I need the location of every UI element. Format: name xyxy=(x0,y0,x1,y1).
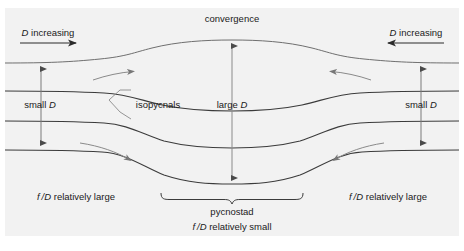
d-symbol-small-left: D xyxy=(49,99,56,110)
fd-symbol-center: f /D xyxy=(193,221,207,232)
pycnostad-label: pycnostad xyxy=(210,207,253,217)
fd-text-left: relatively large xyxy=(51,191,115,202)
pycnostad-brace xyxy=(161,193,303,204)
convergence-label: convergence xyxy=(205,14,259,24)
fd-relatively-large-label-right: f /D relatively large xyxy=(349,192,427,202)
fd-relatively-small-label-center: f /D relatively small xyxy=(193,222,272,232)
d-symbol-left: D xyxy=(22,27,29,38)
large-d-label-center: large D xyxy=(217,100,248,110)
d-increasing-label-left: D increasing xyxy=(22,28,75,38)
fd-symbol-left: f /D xyxy=(37,191,51,202)
fd-text-right: relatively large xyxy=(363,191,427,202)
small-d-label-right: small D xyxy=(405,100,437,110)
d-increasing-text-right: increasing xyxy=(396,27,442,38)
flow-arrow-upper-right xyxy=(331,72,371,81)
fd-relatively-large-label-left: f /D relatively large xyxy=(37,192,115,202)
d-symbol-right: D xyxy=(390,27,397,38)
fd-symbol-right: f /D xyxy=(349,191,363,202)
isopycnals-leader-lower xyxy=(109,100,131,119)
small-d-label-left: small D xyxy=(24,100,56,110)
fd-text-center: relatively small xyxy=(207,221,272,232)
small-prefix-left: small xyxy=(24,99,49,110)
flow-arrow-upper-left xyxy=(93,72,133,81)
figure-root: convergence D increasing D increasing sm… xyxy=(0,0,464,251)
d-symbol-small-right: D xyxy=(430,99,437,110)
large-prefix: large xyxy=(217,99,241,110)
isopycnals-label: isopycnals xyxy=(136,100,180,110)
d-symbol-large: D xyxy=(240,99,247,110)
small-prefix-right: small xyxy=(405,99,430,110)
d-increasing-label-right: D increasing xyxy=(390,28,443,38)
d-increasing-text-left: increasing xyxy=(28,27,74,38)
